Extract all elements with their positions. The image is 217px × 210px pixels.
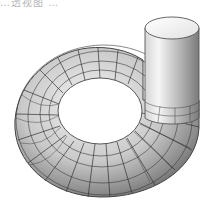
volute-illustration — [0, 0, 217, 210]
outlet-opening — [145, 17, 199, 39]
casing-eye — [58, 78, 142, 144]
outlet-cylinder — [145, 17, 199, 124]
